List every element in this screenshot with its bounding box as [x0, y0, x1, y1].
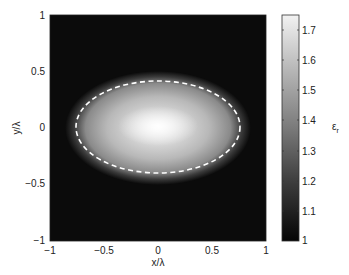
- colorbar-gradient: [282, 15, 299, 241]
- y-tick: −0.5: [25, 178, 45, 189]
- y-axis: 1 0.5 0 −0.5 −1 y/λ: [11, 10, 45, 246]
- y-tick: 0.5: [31, 66, 45, 77]
- y-axis-label: y/λ: [11, 122, 22, 135]
- colorbar-tick: 1.1: [302, 206, 316, 217]
- colorbar-label-subscript: r: [336, 127, 339, 134]
- colorbar-tick: 1.6: [302, 55, 316, 66]
- colorbar-label: εr: [332, 121, 339, 134]
- y-tick: 1: [39, 10, 45, 21]
- colorbar-tick: 1.3: [302, 146, 316, 157]
- x-tick: 0.5: [205, 245, 219, 256]
- colorbar-tick: 1.7: [302, 25, 316, 36]
- heatmap-plot-area: [50, 15, 266, 241]
- colorbar: 1.7 1.6 1.5 1.4 1.3 1.2 1.1 1 εr: [282, 15, 339, 246]
- x-axis: −1 −0.5 0 0.5 1 x/λ: [44, 245, 269, 268]
- x-tick: −0.5: [94, 245, 114, 256]
- y-tick: 0: [39, 122, 45, 133]
- colorbar-tick: 1.4: [302, 115, 316, 126]
- colorbar-tick: 1.5: [302, 85, 316, 96]
- peak-region: [118, 106, 198, 146]
- x-tick: 0: [155, 245, 161, 256]
- x-tick: 1: [263, 245, 269, 256]
- colorbar-tick: 1.2: [302, 176, 316, 187]
- x-axis-label: x/λ: [152, 257, 165, 268]
- y-tick: −1: [34, 235, 46, 246]
- colorbar-tick: 1: [302, 235, 308, 246]
- x-tick: −1: [44, 245, 56, 256]
- figure: −1 −0.5 0 0.5 1 x/λ 1 0.5 0 −0.5 −1 y/λ …: [0, 0, 349, 275]
